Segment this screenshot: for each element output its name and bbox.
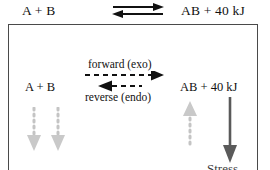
reactant-decrease-arrow-2-icon <box>51 107 65 151</box>
forward-reaction-label: forward (exo) <box>88 57 152 71</box>
top-equation-products: AB + 40 kJ <box>181 1 245 21</box>
equilibrium-double-arrow-icon <box>112 3 164 19</box>
top-equation-reactants: A + B <box>22 1 55 21</box>
product-increase-arrow-icon <box>183 101 197 149</box>
figure-root: A + B AB + 40 kJ forward (exo) <box>0 0 270 170</box>
box-equation-reactants: A + B <box>25 79 55 95</box>
box-equation-products: AB + 40 kJ <box>180 79 237 95</box>
stress-label: Stress <box>207 161 238 170</box>
reactant-decrease-arrow-1-icon <box>27 107 41 151</box>
diagram-box: forward (exo) reverse (endo) A + B AB + … <box>8 24 258 170</box>
top-equation: A + B AB + 40 kJ <box>0 0 270 24</box>
reverse-reaction-label: reverse (endo) <box>85 90 151 104</box>
stress-arrow-icon <box>222 97 238 163</box>
